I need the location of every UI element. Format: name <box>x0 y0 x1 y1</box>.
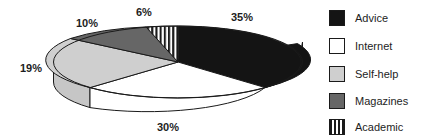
legend-swatch-advice-icon <box>329 10 345 26</box>
legend-swatch-magazines-icon <box>329 93 345 109</box>
legend-label-internet: Internet <box>355 40 392 52</box>
legend-label-magazines: Magazines <box>355 95 408 107</box>
legend-item-internet: Internet <box>329 37 392 55</box>
legend-item-self-help: Self-help <box>329 65 398 83</box>
slice-label-advice: 35% <box>231 11 253 23</box>
legend-label-self-help: Self-help <box>355 68 398 80</box>
legend-swatch-self-help-icon <box>329 66 345 82</box>
legend-item-academic: Academic <box>329 118 403 136</box>
pie-chart-plot-area: 6% 35% 10% 19% 30% <box>0 0 318 140</box>
slice-label-internet: 30% <box>157 121 179 133</box>
pie-chart-graphic <box>0 0 318 140</box>
legend-label-advice: Advice <box>355 12 388 24</box>
slice-label-academic: 6% <box>136 6 152 18</box>
slice-label-magazines: 10% <box>76 17 98 29</box>
slice-label-self-help: 19% <box>20 62 42 74</box>
legend-item-magazines: Magazines <box>329 92 408 110</box>
legend-swatch-internet-icon <box>329 38 345 54</box>
legend-label-academic: Academic <box>355 121 403 133</box>
legend-item-advice: Advice <box>329 9 388 27</box>
legend-swatch-academic-icon <box>329 119 345 135</box>
pie-chart-figure: 6% 35% 10% 19% 30% Advice Internet Self-… <box>0 0 427 140</box>
chart-legend: Advice Internet Self-help Magazines Acad… <box>329 0 427 140</box>
